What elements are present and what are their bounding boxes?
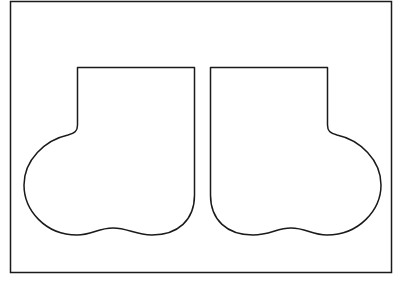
left-boot-outline <box>24 68 195 236</box>
right-boot-outline <box>211 68 382 236</box>
diagram-canvas <box>0 0 404 286</box>
outer-frame <box>11 2 392 273</box>
